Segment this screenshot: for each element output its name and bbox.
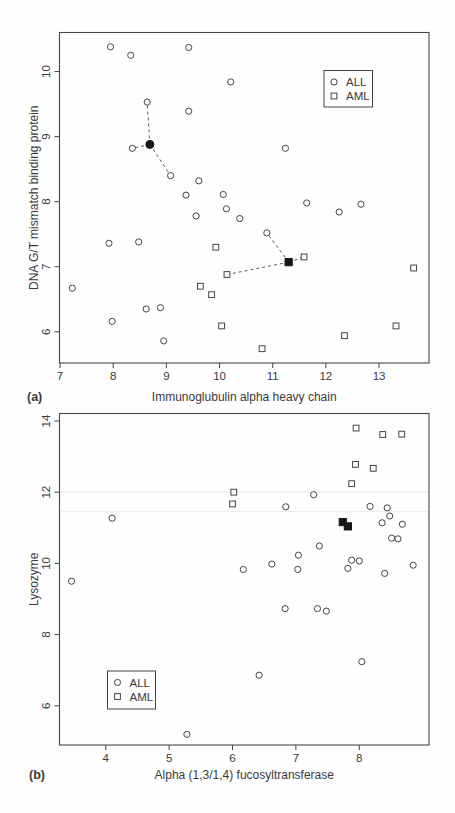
data-point-all-circle	[356, 558, 362, 564]
x-tick-label: 6	[229, 752, 235, 764]
data-point-all-circle	[129, 145, 135, 151]
x-tick-label: 11	[267, 370, 279, 382]
data-point-aml-square	[197, 283, 203, 289]
x-tick-label: 8	[356, 752, 362, 764]
data-point-all-circle	[136, 239, 142, 245]
data-point-all-circle	[109, 515, 115, 521]
y-tick-label: 10	[41, 65, 53, 78]
data-point-all-circle	[143, 306, 149, 312]
data-point-aml-square	[353, 425, 359, 431]
data-point-all-circle	[399, 521, 405, 527]
data-point-all-circle	[69, 285, 75, 291]
data-point-aml-square	[259, 346, 265, 352]
data-point-aml-square	[399, 431, 405, 437]
data-point-all-circle	[282, 145, 288, 151]
data-point-aml-square	[231, 489, 237, 495]
data-point-aml-square	[380, 432, 386, 438]
data-point-all-circle	[228, 79, 234, 85]
data-point-all-circle	[345, 565, 351, 571]
data-point-aml-square	[393, 323, 399, 329]
x-tick-label: 7	[57, 370, 63, 382]
data-point-all-circle	[220, 191, 226, 197]
data-point-aml-square	[353, 462, 359, 468]
data-point-all-circle	[264, 230, 270, 236]
data-point-all-circle	[168, 173, 174, 179]
panel-label: (a)	[27, 390, 42, 404]
y-tick-label: 6	[41, 329, 53, 335]
data-point-all-circle	[193, 213, 199, 219]
data-point-all-circle	[256, 672, 262, 678]
x-tick-label: 10	[213, 370, 226, 382]
data-point-aml-square	[224, 272, 230, 278]
y-tick-label: 7	[41, 264, 53, 270]
data-point-aml-square	[213, 244, 219, 250]
data-point-all-circle	[410, 562, 416, 568]
data-point-all-circle	[106, 240, 112, 246]
x-tick-label: 12	[319, 370, 332, 382]
data-point-all-circle	[349, 557, 355, 563]
y-tick-label: 12	[41, 486, 53, 499]
data-point-all-circle	[384, 505, 390, 511]
data-point-aml-square	[349, 481, 355, 487]
data-point-all-circle	[144, 99, 150, 105]
data-point-all-circle	[186, 44, 192, 50]
legend-label: AML	[346, 90, 370, 102]
legend-label: ALL	[346, 76, 367, 88]
data-point-aml-square	[370, 465, 376, 471]
y-tick-label: 14	[41, 414, 53, 427]
data-point-aml-square	[230, 501, 236, 507]
x-tick-label: 8	[110, 370, 116, 382]
data-point-all-circle	[161, 338, 167, 344]
legend-marker-square	[115, 694, 121, 700]
data-point-aml-square	[342, 333, 348, 339]
data-point-all-circle	[295, 552, 301, 558]
x-tick-label: 7	[293, 752, 299, 764]
data-point-all-circle	[186, 108, 192, 114]
data-point-all-circle	[240, 566, 246, 572]
data-point-all-circle	[183, 192, 189, 198]
x-axis-label: Alpha (1,3/1,4) fucosyltransferase	[155, 768, 335, 782]
legend-marker-circle	[114, 679, 120, 685]
legend-marker-square	[331, 93, 337, 99]
plot-box	[60, 33, 430, 364]
legend-label: AML	[130, 691, 154, 703]
nn-dashed-link	[267, 233, 289, 262]
knn-scatter-figure: 78910111213678910Immunoglubulin alpha he…	[0, 0, 455, 813]
data-point-all-circle	[389, 535, 395, 541]
legend-marker-circle	[331, 79, 337, 85]
data-point-all-circle	[223, 206, 229, 212]
y-tick-label: 8	[41, 631, 53, 637]
data-point-all-circle	[295, 566, 301, 572]
data-point-all-circle	[387, 513, 393, 519]
legend-label: ALL	[130, 677, 151, 689]
nn-dashed-link	[147, 102, 150, 144]
y-tick-label: 9	[41, 133, 53, 139]
data-point-all-circle	[269, 561, 275, 567]
data-point-all-circle	[282, 606, 288, 612]
data-point-all-circle	[304, 200, 310, 206]
panel-label: (b)	[29, 768, 45, 782]
data-point-test-point-filled-squares-filled-square	[344, 523, 351, 530]
data-point-aml-square	[301, 254, 307, 260]
data-point-test-point-filled-square-filled-square	[285, 259, 292, 266]
data-point-all-circle	[283, 504, 289, 510]
y-tick-label: 6	[41, 703, 53, 709]
nn-dashed-link	[150, 144, 171, 175]
data-point-all-circle	[395, 536, 401, 542]
data-point-all-circle	[157, 305, 163, 311]
data-point-all-circle	[336, 209, 342, 215]
y-axis-label: DNA G/T mismatch binding protein	[27, 105, 41, 290]
book-page: CLASSIFICATION IN MICROARRAY EXPERIMENTS…	[0, 0, 455, 813]
data-point-aml-square	[411, 265, 417, 271]
data-point-aml-square	[219, 323, 225, 329]
data-point-all-circle	[68, 578, 74, 584]
data-point-all-circle	[107, 44, 113, 50]
data-point-test-point-filled-circle-filled-circle	[146, 140, 154, 148]
x-tick-label: 4	[103, 752, 110, 764]
data-point-all-circle	[358, 201, 364, 207]
x-tick-label: 13	[373, 370, 386, 382]
data-point-all-circle	[237, 215, 243, 221]
y-axis-label: Lysozyme	[27, 552, 41, 606]
x-tick-label: 5	[166, 752, 172, 764]
data-point-all-circle	[196, 178, 202, 184]
